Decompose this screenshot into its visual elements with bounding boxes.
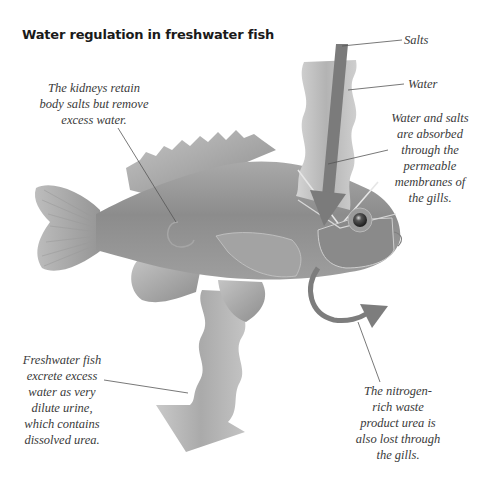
urea-leader-line [358, 322, 380, 382]
tail-fin [35, 185, 104, 271]
salts-leader-line [342, 40, 402, 46]
salts-label: Salts [404, 32, 428, 48]
urine-outflow-arrow [156, 290, 246, 452]
urea-outflow-arrow [311, 268, 388, 328]
water-leader-line [348, 84, 404, 90]
urea-callout: The nitrogen- rich waste product urea is… [348, 383, 448, 463]
diagram-canvas: Water regulation in freshwater fish [0, 0, 481, 477]
water-label: Water [408, 76, 437, 92]
urine-leader-line [104, 380, 188, 393]
eye [348, 208, 372, 232]
urine-callout: Freshwater fish excrete excess water as … [18, 352, 106, 448]
gills-absorb-callout: Water and salts are absorbed through the… [382, 110, 478, 206]
kidneys-callout: The kidneys retain body salts but remove… [24, 80, 164, 128]
